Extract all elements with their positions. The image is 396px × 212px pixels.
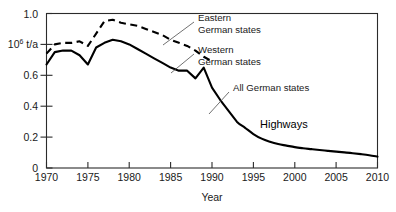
y-tick-label-0-2: 0.2	[23, 131, 38, 143]
x-tick-label-1985: 1985	[159, 171, 183, 183]
annotation-highways-label: Highways	[260, 118, 308, 130]
x-axis-tick-labels: 1970 1975 1980 1985 1990 1995 2000 2005 …	[35, 171, 390, 183]
unit-suffix: t/a	[23, 38, 38, 50]
annotation-eastern-line1: Eastern	[198, 12, 231, 23]
leader-line-all	[209, 92, 229, 114]
annotation-eastern-line2: German states	[198, 24, 261, 35]
x-tick-label-1970: 1970	[35, 171, 59, 183]
chart-container: 1.0 0.6 0.4 0.2 0 106 t/a 1970	[0, 0, 396, 212]
y-tick-label-0-4: 0.4	[23, 100, 38, 112]
x-tick-label-2010: 2010	[366, 171, 390, 183]
x-tick-label-1995: 1995	[242, 171, 266, 183]
unit-mantissa: 10	[8, 38, 20, 50]
annotation-all-line1: All German states	[233, 82, 309, 93]
y-axis-unit-label: 106 t/a	[8, 38, 38, 50]
plot-frame	[47, 14, 378, 169]
y-tick-label-0-6: 0.6	[23, 69, 38, 81]
annotation-all-german-states: All German states	[233, 82, 309, 93]
series-line-eastern-german-states	[47, 20, 213, 62]
y-tick-label-1: 1.0	[23, 8, 38, 20]
annotation-highways: Highways	[260, 118, 308, 130]
x-tick-label-2005: 2005	[324, 171, 348, 183]
annotation-western-german-states: Western German states	[198, 44, 261, 67]
x-tick-label-1990: 1990	[200, 171, 224, 183]
y-axis-tick-labels: 1.0 0.6 0.4 0.2 0	[23, 8, 38, 175]
annotation-eastern-german-states: Eastern German states	[198, 12, 261, 35]
x-axis-ticks	[47, 162, 378, 168]
x-tick-label-2000: 2000	[283, 171, 307, 183]
leader-line-eastern	[163, 22, 194, 45]
x-tick-label-1975: 1975	[76, 171, 100, 183]
annotation-western-line2: German states	[198, 56, 261, 67]
annotation-western-line1: Western	[198, 44, 234, 55]
x-tick-label-1980: 1980	[118, 171, 142, 183]
line-chart: 1.0 0.6 0.4 0.2 0 106 t/a 1970	[0, 0, 396, 212]
svg-text:106 t/a: 106 t/a	[8, 38, 38, 50]
x-axis-title: Year	[201, 191, 223, 203]
